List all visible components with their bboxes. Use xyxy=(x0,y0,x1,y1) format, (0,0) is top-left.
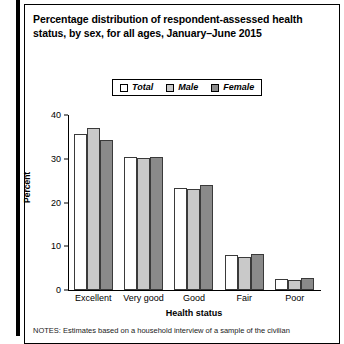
y-tick-label-20: 20 xyxy=(51,198,64,207)
legend-swatch-female xyxy=(211,84,219,92)
plot-area: 0 10 20 30 40 xyxy=(68,115,320,290)
x-label-excellent: Excellent xyxy=(68,293,118,303)
bar-very-good-total[interactable] xyxy=(124,157,137,290)
y-tick-10: 10 xyxy=(51,242,68,251)
y-tick-label-0: 0 xyxy=(56,286,64,295)
legend-item-total[interactable]: Total xyxy=(120,83,153,92)
legend-item-female[interactable]: Female xyxy=(211,83,254,92)
y-tick-label-40: 40 xyxy=(51,111,64,120)
bar-good-male[interactable] xyxy=(187,189,200,290)
legend-item-male[interactable]: Male xyxy=(166,83,198,92)
bar-very-good-male[interactable] xyxy=(137,158,150,290)
y-tick-40: 40 xyxy=(51,111,68,120)
bar-fair-male[interactable] xyxy=(238,257,251,290)
bar-group-good xyxy=(174,115,213,290)
bar-groups xyxy=(68,115,320,290)
bar-group-very-good xyxy=(124,115,163,290)
y-tick-label-30: 30 xyxy=(51,154,64,163)
x-label-very-good: Very good xyxy=(119,293,169,303)
legend-label-total: Total xyxy=(132,83,153,92)
bar-fair-female[interactable] xyxy=(251,254,264,290)
y-tick-30: 30 xyxy=(51,154,68,163)
figure-footnote: NOTES: Estimates based on a household in… xyxy=(33,326,329,335)
y-tick-20: 20 xyxy=(51,198,68,207)
x-axis-line xyxy=(68,290,321,291)
bar-poor-total[interactable] xyxy=(275,279,288,290)
bar-excellent-male[interactable] xyxy=(87,128,100,290)
bar-poor-female[interactable] xyxy=(301,278,314,290)
x-axis-title: Health status xyxy=(68,308,320,318)
legend-label-male: Male xyxy=(178,83,198,92)
bar-fair-total[interactable] xyxy=(225,255,238,290)
bar-group-poor xyxy=(275,115,314,290)
bar-good-total[interactable] xyxy=(174,188,187,290)
legend-label-female: Female xyxy=(223,83,254,92)
y-axis-title: Percent xyxy=(22,172,32,203)
bar-very-good-female[interactable] xyxy=(150,157,163,290)
bar-excellent-female[interactable] xyxy=(100,140,113,290)
bar-excellent-total[interactable] xyxy=(74,134,87,290)
legend-swatch-male xyxy=(166,84,174,92)
bar-poor-male[interactable] xyxy=(288,280,301,291)
legend-swatch-total xyxy=(120,84,128,92)
y-tick-label-10: 10 xyxy=(51,242,64,251)
y-tick-0: 0 xyxy=(56,286,68,295)
bar-group-excellent xyxy=(74,115,113,290)
bar-group-fair xyxy=(225,115,264,290)
x-label-fair: Fair xyxy=(219,293,269,303)
figure-title: Percentage distribution of respondent-as… xyxy=(33,12,323,40)
x-axis-labels: Excellent Very good Good Fair Poor xyxy=(68,293,320,303)
x-label-poor: Poor xyxy=(270,293,320,303)
bar-good-female[interactable] xyxy=(200,185,213,290)
chart-legend: Total Male Female xyxy=(112,79,262,96)
page-edge-bar xyxy=(16,0,20,336)
x-label-good: Good xyxy=(169,293,219,303)
